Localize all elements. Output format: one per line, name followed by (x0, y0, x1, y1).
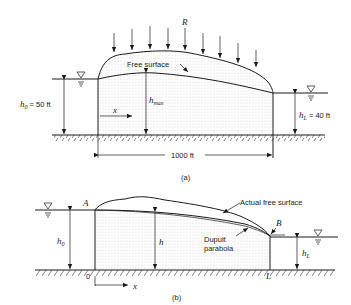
dupuit-label-line1: Dupuit (204, 235, 227, 244)
ground-hatch-a (52, 135, 325, 141)
caption-b: (b) (172, 293, 182, 302)
point-a-label: A (82, 198, 89, 208)
x-label-b: x (132, 281, 137, 291)
x-label-a: x (112, 105, 117, 115)
recharge-label: R (181, 17, 188, 27)
caption-a: (a) (181, 173, 191, 182)
figure-canvas: R Free surface h0 = 50 ft hmax x hL = 40… (0, 0, 351, 305)
actual-free-surface-label: Actual free surface (240, 198, 303, 207)
ground-hatch-b (35, 270, 335, 276)
free-surface-label: Free surface (127, 60, 169, 69)
h0-label-a: h0 = 50 ft (20, 99, 52, 110)
point-b-label: B (276, 218, 282, 228)
hl-label-b: hL (302, 248, 311, 259)
h0-label-b: h0 (57, 236, 65, 247)
hl-label-a: hL = 40 ft (299, 110, 331, 121)
aquifer-a (98, 51, 273, 135)
figure-b: A B Actual free surface Dupuit parabola … (35, 197, 338, 302)
end-label: L (265, 271, 271, 281)
figure-a: R Free surface h0 = 50 ft hmax x hL = 40… (20, 17, 331, 182)
origin-label: 0 (86, 272, 90, 281)
length-label: 1000 ft (171, 151, 195, 160)
h-label: h (159, 237, 164, 247)
aquifer-b (95, 210, 270, 270)
dupuit-label-line2: parabola (204, 244, 234, 253)
